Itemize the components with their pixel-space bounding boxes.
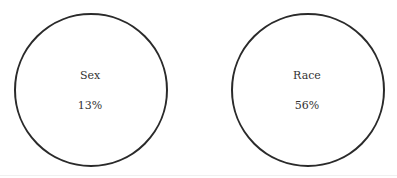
circle-race-value: 56% — [257, 99, 357, 113]
circle-sex-value: 13% — [40, 99, 140, 113]
diagram-canvas: Sex 13% Race 56% — [0, 0, 397, 178]
circle-race — [231, 13, 385, 167]
circle-sex — [14, 13, 168, 167]
bottom-divider — [0, 175, 397, 176]
circle-sex-label: Sex — [40, 69, 140, 83]
circle-race-label: Race — [257, 69, 357, 83]
